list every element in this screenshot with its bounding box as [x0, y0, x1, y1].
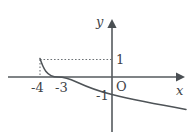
- y-axis-label: y: [96, 15, 103, 28]
- function-graph-figure: y x O 1 -1 -4 -3: [0, 0, 189, 140]
- origin-label: O: [116, 80, 127, 93]
- y-tick-label-one: 1: [116, 53, 124, 66]
- y-axis-arrow: [107, 19, 116, 28]
- x-axis-arrow: [176, 72, 185, 81]
- x-tick-label-negative-three: -3: [55, 81, 68, 94]
- y-tick-label-negative-one: -1: [96, 89, 109, 102]
- graph-canvas: [0, 0, 189, 140]
- x-tick-label-negative-four: -4: [31, 81, 44, 94]
- x-axis-label: x: [176, 84, 183, 97]
